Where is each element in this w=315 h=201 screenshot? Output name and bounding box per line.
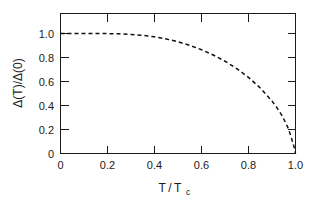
y-tick-label-0.4: 0.4 bbox=[39, 100, 54, 112]
y-axis-right-ticks bbox=[288, 34, 296, 130]
x-axis-ticks bbox=[108, 146, 249, 154]
x-axis-title-subscript: c bbox=[186, 187, 191, 197]
y-tick-labels: 1.0 0.8 0.6 0.4 0.2 0 bbox=[39, 28, 54, 160]
frame-box bbox=[61, 14, 296, 154]
y-axis-ticks bbox=[61, 34, 69, 130]
figure-container: 1.0 0.8 0.6 0.4 0.2 0 0 0.2 0.4 0.6 0.8 … bbox=[0, 0, 315, 201]
x-tick-label-0.8: 0.8 bbox=[241, 159, 256, 171]
y-tick-label-0.8: 0.8 bbox=[39, 52, 54, 64]
y-tick-label-0.6: 0.6 bbox=[39, 76, 54, 88]
x-tick-label-0.2: 0.2 bbox=[100, 159, 115, 171]
x-tick-label-0.4: 0.4 bbox=[147, 159, 162, 171]
x-axis-title-base: T / T bbox=[159, 181, 182, 195]
y-axis-title: Δ(T)/Δ(0) bbox=[11, 58, 25, 107]
y-tick-label-0: 0 bbox=[48, 148, 54, 160]
y-tick-label-0.2: 0.2 bbox=[39, 124, 54, 136]
gap-curve bbox=[61, 34, 296, 154]
x-tick-label-0.6: 0.6 bbox=[194, 159, 209, 171]
plot-frame bbox=[61, 14, 296, 154]
x-tick-labels: 0 0.2 0.4 0.6 0.8 1.0 bbox=[57, 159, 303, 171]
x-tick-label-0: 0 bbox=[57, 159, 63, 171]
x-axis-top-ticks bbox=[108, 14, 249, 22]
x-tick-label-1.0: 1.0 bbox=[288, 159, 303, 171]
y-tick-label-1.0: 1.0 bbox=[39, 28, 54, 40]
bcs-gap-chart: 1.0 0.8 0.6 0.4 0.2 0 0 0.2 0.4 0.6 0.8 … bbox=[0, 0, 315, 201]
x-axis-title: T / T c bbox=[159, 181, 191, 197]
y-axis-title-text: Δ(T)/Δ(0) bbox=[11, 58, 25, 107]
